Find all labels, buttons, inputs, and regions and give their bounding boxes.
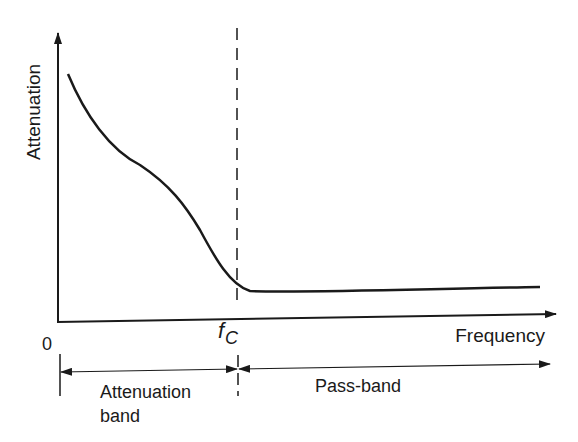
attenuation-diagram: Attenuation 0 fC Frequency Attenuation b… [0, 0, 578, 442]
attenuation-band-label-line1: Attenuation [100, 382, 191, 402]
cutoff-label-subscript: C [225, 328, 239, 348]
origin-label: 0 [42, 334, 52, 354]
cutoff-label: fC [218, 318, 239, 348]
pass-band-label: Pass-band [315, 376, 401, 396]
pass-band-arrow [239, 364, 550, 369]
attenuation-curve [68, 74, 540, 292]
x-axis-label: Frequency [455, 325, 545, 346]
x-axis [57, 314, 556, 322]
y-axis-label: Attenuation [23, 64, 44, 160]
attenuation-band-arrow [61, 369, 237, 372]
attenuation-band-label-line2: band [100, 406, 140, 426]
attenuation-band-label: Attenuation band [100, 382, 196, 426]
